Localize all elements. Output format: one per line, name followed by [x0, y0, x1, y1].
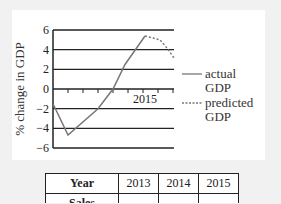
- svg-text:−6: −6: [36, 141, 49, 155]
- svg-text:−2: −2: [36, 102, 49, 116]
- sales-header: Sales: [46, 194, 119, 204]
- chart-panel: % change in GDP 6 4 2: [12, 10, 265, 160]
- x-tick-label-2015: 2015: [133, 92, 157, 106]
- svg-text:actual: actual: [205, 66, 236, 81]
- sales-2013: [119, 194, 159, 204]
- svg-text:GDP: GDP: [205, 80, 231, 95]
- gdp-line-chart: % change in GDP 6 4 2: [12, 10, 265, 160]
- y-tick-labels: 6 4 2 0 −2 −4 −6: [36, 23, 49, 155]
- table-header-row: Year 2013 2014 2015: [46, 174, 239, 194]
- table-row: Sales: [46, 194, 239, 204]
- svg-text:−4: −4: [36, 121, 49, 135]
- svg-text:0: 0: [43, 82, 49, 96]
- year-2014: 2014: [159, 174, 199, 194]
- actual-gdp-line: [53, 36, 145, 135]
- year-header: Year: [46, 174, 119, 194]
- year-2013: 2013: [119, 174, 159, 194]
- year-2015: 2015: [199, 174, 239, 194]
- svg-text:4: 4: [43, 43, 49, 57]
- svg-text:predicted: predicted: [205, 95, 254, 110]
- svg-text:6: 6: [43, 23, 49, 37]
- y-axis-title: % change in GDP: [12, 42, 27, 136]
- predicted-gdp-line: [145, 36, 174, 58]
- sales-2015: [199, 194, 239, 204]
- sales-table: Year 2013 2014 2015 Sales: [45, 173, 239, 203]
- sales-2014: [159, 194, 199, 204]
- svg-text:GDP: GDP: [205, 109, 231, 124]
- svg-text:2: 2: [43, 62, 49, 76]
- legend: actual GDP predicted GDP: [182, 66, 254, 124]
